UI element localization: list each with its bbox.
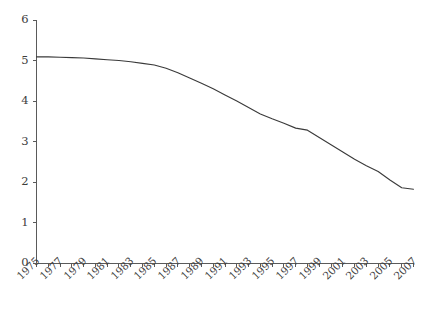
y-axis-tick-label: 6 — [7, 14, 29, 26]
data-series-line — [37, 57, 414, 189]
y-axis-tick-label: 4 — [7, 95, 29, 107]
line-chart: 0123456 19751977197919811983198519871989… — [0, 0, 429, 323]
y-axis-tick-label: 3 — [7, 136, 29, 148]
y-axis-tick-label: 1 — [7, 217, 29, 229]
y-axis-tick-label: 5 — [7, 55, 29, 67]
y-axis-tick-label: 2 — [7, 176, 29, 188]
